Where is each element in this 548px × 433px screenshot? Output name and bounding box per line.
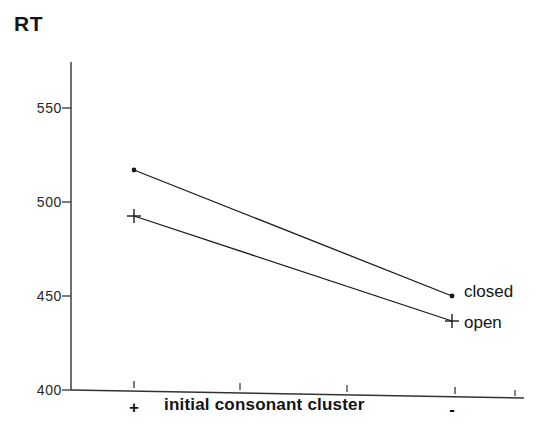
x-axis-title: initial consonant cluster (164, 396, 365, 413)
series-closed-line (134, 170, 452, 296)
series-open-marker-plus-cond (127, 209, 141, 223)
series-open (127, 209, 459, 328)
series-open-marker-minus-cond (445, 314, 459, 328)
chart-figure: RT (0, 0, 548, 433)
x-tick-label-minus: - (449, 401, 455, 418)
y-axis-ticks (62, 108, 71, 390)
series-open-line (134, 216, 452, 321)
x-tick-label-plus: + (129, 399, 139, 416)
y-tick-label-400: 400 (16, 383, 62, 397)
series-label-closed: closed (464, 283, 513, 300)
x-axis-ticks (134, 381, 515, 396)
y-tick-label-550: 550 (16, 101, 62, 115)
series-closed-marker-minus-cond (450, 294, 455, 299)
series-label-open: open (464, 314, 502, 331)
plot-area (0, 0, 548, 433)
y-tick-label-500: 500 (16, 195, 62, 209)
series-closed (132, 168, 455, 299)
series-closed-marker-plus-cond (132, 168, 137, 173)
y-tick-label-450: 450 (16, 289, 62, 303)
